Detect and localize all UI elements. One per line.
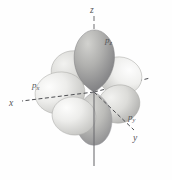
- axis-label-x: x: [8, 98, 14, 108]
- p-orbital-diagram: z x y pz px py: [0, 0, 172, 180]
- orbital-lobe-group: [32, 30, 145, 145]
- orbital-label-px: px: [31, 80, 40, 91]
- orbital-label-pz-sub: z: [109, 39, 113, 46]
- orbital-svg-canvas: z x y pz px py: [0, 0, 172, 180]
- axis-label-z-text: z: [89, 5, 94, 15]
- orbital-label-pz: pz: [104, 35, 113, 46]
- orbital-label-py-sub: y: [132, 116, 136, 123]
- axis-label-y-text: y: [132, 133, 138, 143]
- axis-label-z: z: [89, 5, 94, 15]
- axis-label-y: y: [132, 133, 138, 143]
- orbital-label-px-sub: x: [36, 84, 40, 91]
- axis-label-x-text: x: [8, 98, 14, 108]
